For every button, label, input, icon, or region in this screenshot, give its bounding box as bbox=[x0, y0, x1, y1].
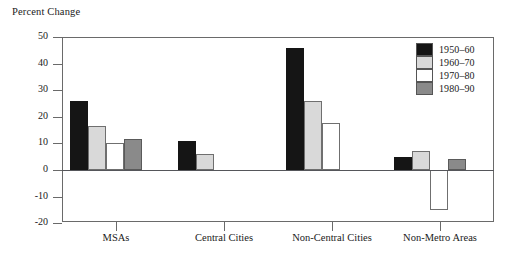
y-tick-label: 50 bbox=[38, 30, 48, 41]
bar bbox=[178, 141, 196, 170]
bar bbox=[124, 139, 142, 170]
bar bbox=[448, 159, 466, 170]
y-tick-label: 30 bbox=[38, 83, 48, 94]
bar bbox=[196, 154, 214, 170]
legend-swatch bbox=[416, 69, 433, 82]
legend-label: 1950–60 bbox=[439, 44, 475, 55]
y-tick-label: -20 bbox=[35, 216, 48, 227]
bar bbox=[322, 123, 340, 170]
x-tick-mark bbox=[440, 222, 441, 231]
x-tick-label: MSAs bbox=[103, 232, 130, 243]
y-tick-label: -10 bbox=[35, 190, 48, 201]
bar-chart: Percent Change 50403020100-10-20 MSAsCen… bbox=[0, 0, 511, 256]
y-tick-mark bbox=[53, 117, 62, 118]
y-axis-title: Percent Change bbox=[12, 6, 80, 17]
x-tick-mark bbox=[332, 222, 333, 231]
legend-swatch bbox=[416, 56, 433, 69]
y-tick-mark bbox=[53, 37, 62, 38]
x-tick-mark bbox=[116, 222, 117, 231]
legend-label: 1970–80 bbox=[439, 70, 475, 81]
zero-baseline bbox=[62, 170, 494, 171]
bar bbox=[394, 157, 412, 170]
y-tick-mark bbox=[53, 223, 62, 224]
bar bbox=[88, 126, 106, 170]
y-tick-mark bbox=[53, 197, 62, 198]
legend-label: 1960–70 bbox=[439, 57, 475, 68]
bar bbox=[412, 151, 430, 170]
legend-item: 1960–70 bbox=[416, 56, 475, 69]
y-tick-label: 20 bbox=[38, 110, 48, 121]
legend: 1950–601960–701970–801980–90 bbox=[416, 43, 475, 95]
x-tick-mark bbox=[224, 222, 225, 231]
legend-swatch bbox=[416, 82, 433, 95]
y-tick-label: 10 bbox=[38, 136, 48, 147]
x-tick-label: Non-Central Cities bbox=[292, 232, 372, 243]
legend-item: 1970–80 bbox=[416, 69, 475, 82]
bar bbox=[286, 48, 304, 170]
bar bbox=[430, 170, 448, 210]
y-tick-label: 40 bbox=[38, 57, 48, 68]
bar bbox=[70, 101, 88, 170]
legend-item: 1950–60 bbox=[416, 43, 475, 56]
legend-swatch bbox=[416, 43, 433, 56]
y-tick-mark bbox=[53, 90, 62, 91]
y-tick-mark bbox=[53, 170, 62, 171]
bar bbox=[106, 143, 124, 170]
x-tick-label: Non-Metro Areas bbox=[403, 232, 477, 243]
bar bbox=[304, 101, 322, 170]
y-tick-mark bbox=[53, 143, 62, 144]
y-tick-mark bbox=[53, 64, 62, 65]
x-tick-label: Central Cities bbox=[195, 232, 253, 243]
legend-item: 1980–90 bbox=[416, 82, 475, 95]
y-tick-label: 0 bbox=[43, 163, 48, 174]
legend-label: 1980–90 bbox=[439, 83, 475, 94]
